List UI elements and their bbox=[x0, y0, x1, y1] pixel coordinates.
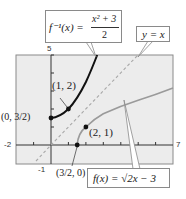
point-1-2-label: (1, 2) bbox=[52, 80, 76, 91]
point-1-2-marker bbox=[66, 107, 71, 112]
graph-figure: 5 -2 7 -1 f⁻¹(x) = x² + 3 2 y = x f(x) =… bbox=[0, 0, 186, 199]
inverse-function-denominator: 2 bbox=[102, 30, 107, 40]
point-2-1-marker bbox=[84, 125, 89, 130]
x-max-label: 7 bbox=[176, 141, 180, 149]
inverse-function-label-box: f⁻¹(x) = x² + 3 2 bbox=[45, 10, 122, 43]
inverse-function-lhs: f⁻¹(x) = bbox=[49, 22, 84, 33]
point-2-1-label: (2, 1) bbox=[89, 127, 113, 138]
point-3half-0-label: (3/2, 0) bbox=[56, 168, 85, 178]
y-min-label: -1 bbox=[38, 166, 45, 174]
point-0-3half-marker bbox=[49, 116, 54, 121]
point-3half-0-marker bbox=[75, 143, 80, 148]
inverse-function-numerator: x² + 3 bbox=[92, 14, 116, 24]
plot-frame bbox=[16, 55, 173, 164]
identity-line-label-box: y = x bbox=[136, 26, 170, 42]
identity-line-label: y = x bbox=[142, 29, 165, 40]
x-min-label: -2 bbox=[4, 141, 11, 149]
fraction-bar bbox=[91, 27, 119, 28]
y-max-label: 5 bbox=[47, 45, 51, 53]
function-label-box: f(x) = √2x − 3 bbox=[87, 168, 170, 188]
function-label: f(x) = √2x − 3 bbox=[93, 173, 156, 184]
point-0-3half-label: (0, 3/2) bbox=[1, 112, 30, 122]
